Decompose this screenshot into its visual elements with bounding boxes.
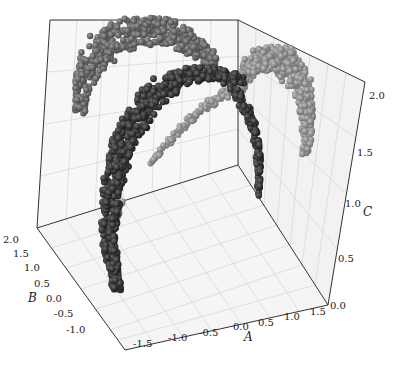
b-tick: 0.0 bbox=[46, 293, 62, 304]
c-tick: 2.0 bbox=[369, 90, 385, 101]
b-tick: 1.0 bbox=[24, 262, 40, 273]
b-tick: -1.0 bbox=[66, 324, 85, 335]
a-tick: -1.5 bbox=[133, 338, 152, 349]
b-tick: 1.5 bbox=[13, 248, 29, 259]
a-tick: 1.0 bbox=[284, 311, 300, 322]
c-tick: 0.0 bbox=[330, 300, 346, 311]
c-tick: 1.0 bbox=[345, 198, 361, 209]
a-axis-label: A bbox=[243, 330, 253, 344]
a-tick: 1.5 bbox=[310, 306, 326, 317]
c-tick: 0.5 bbox=[338, 253, 354, 264]
a-tick: -1.0 bbox=[168, 332, 187, 343]
c-axis-label: C bbox=[363, 205, 372, 219]
b-tick: 0.5 bbox=[34, 278, 50, 289]
c-tick: 1.5 bbox=[357, 147, 373, 158]
b-tick: -0.5 bbox=[54, 308, 73, 319]
b-tick: 2.0 bbox=[3, 234, 19, 245]
3d-scatter-chart: 2.0 1.5 1.0 0.5 0.0 -0.5 -1.0 B -1.5 -1.… bbox=[0, 0, 402, 367]
a-tick: -0.5 bbox=[199, 327, 218, 338]
a-tick: 0.5 bbox=[258, 317, 274, 328]
b-axis-label: B bbox=[27, 291, 37, 305]
